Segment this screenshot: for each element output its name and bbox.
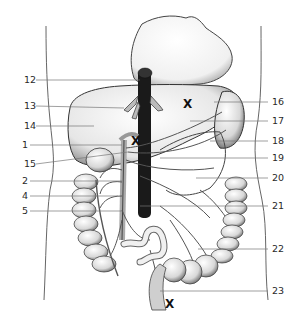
label-1: 1: [6, 140, 28, 150]
descending-colon: [211, 177, 247, 263]
label-4: 4: [6, 191, 28, 201]
x-marker-liver: X: [183, 98, 192, 110]
ascending-colon: [72, 174, 116, 272]
label-17: 17: [272, 116, 284, 126]
label-13: 13: [14, 101, 36, 111]
x-marker-portal: X: [131, 135, 140, 147]
label-18: 18: [272, 136, 284, 146]
x-marker-rectum: X: [165, 298, 174, 310]
label-23: 23: [272, 286, 284, 296]
label-22: 22: [272, 244, 284, 254]
label-12: 12: [14, 75, 36, 85]
label-14: 14: [14, 121, 36, 131]
label-21: 21: [272, 201, 284, 211]
label-15: 15: [14, 159, 36, 169]
gallbladder: [86, 148, 114, 172]
label-19: 19: [272, 153, 284, 163]
anatomy-diagram: 12 13 14 1 15 2 4 5 16 17 18 19 20 21 22…: [0, 0, 306, 334]
label-5: 5: [6, 206, 28, 216]
label-16: 16: [272, 97, 284, 107]
anatomy-illustration: [0, 0, 306, 334]
label-2: 2: [6, 176, 28, 186]
spleen: [215, 91, 245, 148]
sigmoid-colon: [162, 255, 218, 284]
label-20: 20: [272, 173, 284, 183]
rectum: [149, 264, 166, 310]
vena-cava-top: [138, 68, 152, 78]
